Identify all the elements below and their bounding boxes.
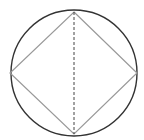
geometry-diagram [0,0,144,140]
